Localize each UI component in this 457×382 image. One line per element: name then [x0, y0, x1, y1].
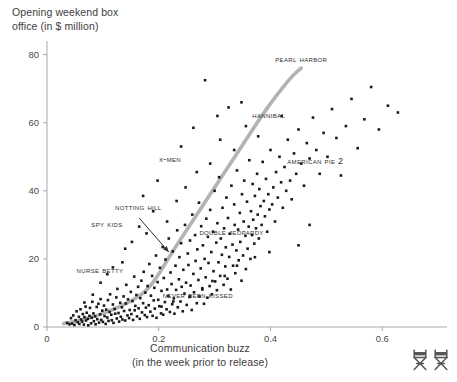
y-tick-label: 40 — [17, 185, 39, 196]
scatter-chart-figure: Opening weekend box office (in $ million… — [0, 0, 457, 382]
y-tick-label: 0 — [17, 321, 39, 332]
film-label: Double Jeopardy — [199, 227, 263, 237]
x-tick-label: 0.2 — [139, 333, 179, 344]
plot-area — [0, 0, 457, 382]
x-tick-label: 0.6 — [362, 333, 402, 344]
film-label: Pearl Harbor — [275, 54, 327, 64]
film-label: Nurse Betty — [77, 265, 124, 275]
annotation-arrow — [139, 218, 169, 252]
y-tick-label: 20 — [17, 253, 39, 264]
x-tick-label: 0.4 — [251, 333, 291, 344]
film-label: Never Been Kissed — [163, 290, 233, 300]
film-label: X-Men — [159, 154, 181, 164]
y-tick-label: 80 — [17, 49, 39, 60]
film-label: Notting Hill — [115, 202, 161, 212]
x-tick-label: 0 — [27, 333, 67, 344]
director-chair-icon — [411, 349, 429, 371]
trend-line — [64, 68, 301, 323]
y-tick-label: 60 — [17, 117, 39, 128]
director-chair-icons — [411, 345, 453, 371]
film-label: American Pie 2 — [287, 156, 343, 166]
axes — [43, 41, 447, 331]
director-chair-icon — [432, 349, 450, 371]
film-label: Hannibal — [252, 110, 285, 120]
film-label: Spy Kids — [91, 219, 122, 229]
